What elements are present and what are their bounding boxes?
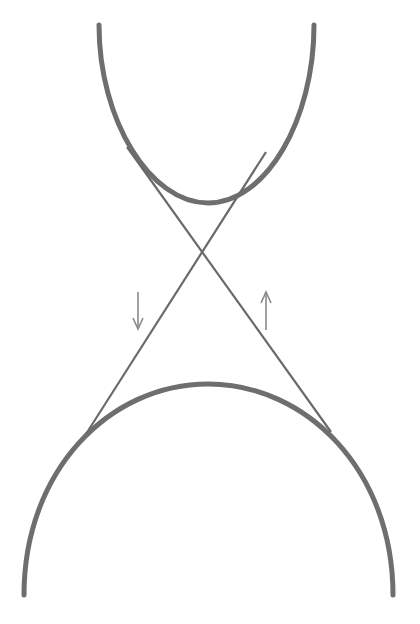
- crossed-belt-diagram: [0, 0, 420, 624]
- lower-pulley: [24, 384, 393, 595]
- diagram-svg: [0, 0, 420, 624]
- arrow-up-icon: [261, 292, 271, 330]
- arrow-down-icon: [133, 292, 143, 329]
- upper-pulley: [99, 25, 314, 203]
